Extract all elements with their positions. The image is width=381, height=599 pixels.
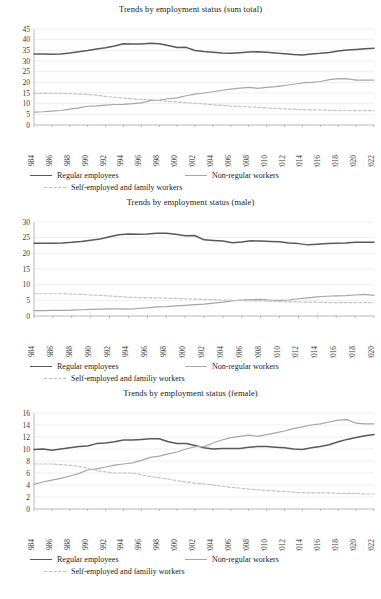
- legend-swatch-regular-employees-icon: [30, 366, 52, 367]
- legend-label-non-regular-workers: Non-regular workers: [212, 171, 279, 180]
- x-axis-tick-label: 1990: [84, 346, 93, 358]
- x-axis-tick-label: 2002: [188, 155, 197, 167]
- x-axis-tick-label: 2010: [260, 155, 269, 167]
- chart-title-sum-total: Trends by employment status (sum total): [0, 0, 381, 15]
- y-axis-tick-label: 15: [22, 89, 30, 98]
- x-axis-tick-label: 1984: [27, 539, 36, 551]
- x-axis-tick-label: 2012: [278, 539, 287, 551]
- x-axis-tick-label: 1994: [116, 539, 125, 551]
- y-axis-tick-label: 5: [26, 296, 30, 305]
- y-axis-tick-label: 0: [26, 505, 30, 514]
- legend-swatch-regular-employees-icon: [30, 175, 52, 176]
- x-axis-tick-label: 1998: [152, 155, 161, 167]
- x-axis-tick-label: 1986: [45, 539, 54, 551]
- line-chart-sum-total: 0510152025303540451984198619881990199219…: [0, 15, 381, 167]
- series-line-non-regular-workers: [34, 79, 374, 112]
- x-axis-tick-label: 1998: [152, 539, 161, 551]
- x-axis-tick-label: 2006: [235, 346, 244, 358]
- legend-item-regular-employees[interactable]: Regular employees: [30, 362, 185, 371]
- x-axis-tick-label: 1988: [65, 346, 74, 358]
- x-axis-tick-label: 2016: [313, 155, 322, 167]
- y-axis-tick-label: 2: [26, 493, 30, 502]
- x-axis-tick-label: 2014: [295, 155, 304, 167]
- charts-page: Trends by employment status (sum total)0…: [0, 0, 381, 577]
- x-axis-tick-label: 2004: [206, 539, 215, 551]
- y-axis-tick-label: 10: [22, 99, 30, 108]
- legend-label-regular-employees: Regular employees: [57, 555, 119, 564]
- series-line-self-employed-family-workers: [34, 294, 374, 303]
- x-axis-tick-label: 2016: [313, 539, 322, 551]
- legend-row: Self-employed and familiy workers: [30, 565, 381, 577]
- x-axis-tick-label: 2008: [242, 539, 251, 551]
- x-axis-tick-label: 2018: [348, 346, 357, 358]
- line-chart-female: 0246810121416198419861988199019921994199…: [0, 399, 381, 551]
- legend-swatch-self-employed-family-workers-icon: [44, 378, 66, 379]
- legend-item-self-employed-family-workers[interactable]: Self-employed and familiy workers: [44, 374, 185, 383]
- legend-item-self-employed-family-workers[interactable]: Self-employed and family workers: [44, 183, 182, 192]
- y-axis-tick-label: 35: [22, 46, 30, 55]
- x-axis-tick-label: 1996: [140, 346, 149, 358]
- legend-swatch-regular-employees-icon: [30, 559, 52, 560]
- y-axis-tick-label: 4: [26, 481, 30, 490]
- y-axis-tick-label: 45: [22, 25, 30, 34]
- y-axis-tick-label: 8: [26, 457, 30, 466]
- x-axis-tick-label: 1986: [45, 155, 54, 167]
- legend-male: Regular employeesNon-regular workersSelf…: [0, 358, 381, 384]
- series-line-regular-employees: [34, 233, 374, 245]
- x-axis-tick-label: 2000: [170, 539, 179, 551]
- x-axis-tick-label: 2010: [260, 539, 269, 551]
- x-axis-tick-label: 1992: [103, 346, 112, 358]
- line-chart-male: 0510152025301984198619881990199219941996…: [0, 208, 381, 358]
- legend-row: Regular employeesNon-regular workers: [30, 169, 381, 181]
- x-axis-tick-label: 2004: [206, 155, 215, 167]
- x-axis-tick-label: 2008: [242, 155, 251, 167]
- y-axis-tick-label: 30: [22, 57, 30, 66]
- y-axis-tick-label: 5: [26, 110, 30, 119]
- legend-item-regular-employees[interactable]: Regular employees: [30, 555, 185, 564]
- x-axis-tick-label: 2006: [224, 155, 233, 167]
- y-axis-tick-label: 10: [22, 445, 30, 454]
- legend-item-self-employed-family-workers[interactable]: Self-employed and familiy workers: [44, 567, 185, 576]
- legend-item-non-regular-workers[interactable]: Non-regular workers: [185, 362, 279, 371]
- x-axis-tick-label: 2018: [331, 539, 340, 551]
- legend-swatch-non-regular-workers-icon: [185, 175, 207, 176]
- plot-area-male: 0510152025301984198619881990199219941996…: [0, 208, 381, 358]
- x-axis-tick-label: 1996: [134, 539, 143, 551]
- x-axis-tick-label: 1996: [134, 155, 143, 167]
- legend-label-self-employed-family-workers: Self-employed and familiy workers: [71, 374, 185, 383]
- y-axis-tick-label: 12: [22, 433, 30, 442]
- x-axis-tick-label: 2002: [197, 346, 206, 358]
- legend-label-regular-employees: Regular employees: [57, 362, 119, 371]
- plot-area-female: 0246810121416198419861988199019921994199…: [0, 399, 381, 551]
- x-axis-tick-label: 2020: [349, 539, 358, 551]
- y-axis-tick-label: 10: [22, 280, 30, 289]
- y-axis-tick-label: 16: [22, 409, 30, 418]
- legend-item-regular-employees[interactable]: Regular employees: [30, 171, 185, 180]
- x-axis-tick-label: 2020: [349, 155, 358, 167]
- x-axis-tick-label: 1986: [46, 346, 55, 358]
- y-axis-tick-label: 0: [26, 121, 30, 130]
- legend-swatch-non-regular-workers-icon: [185, 559, 207, 560]
- legend-swatch-self-employed-family-workers-icon: [44, 187, 66, 188]
- legend-row: Self-employed and familiy workers: [30, 372, 381, 384]
- plot-area-sum-total: 0510152025303540451984198619881990199219…: [0, 15, 381, 167]
- series-line-regular-employees: [34, 43, 374, 55]
- x-axis-tick-label: 1988: [63, 155, 72, 167]
- x-axis-tick-label: 1992: [99, 155, 108, 167]
- chart-block-male: Trends by employment status (male)051015…: [0, 193, 381, 384]
- legend-row: Regular employeesNon-regular workers: [30, 553, 381, 565]
- x-axis-tick-label: 2000: [178, 346, 187, 358]
- x-axis-tick-label: 2016: [329, 346, 338, 358]
- series-line-non-regular-workers: [34, 294, 374, 310]
- y-axis-tick-label: 20: [22, 249, 30, 258]
- y-axis-tick-label: 40: [22, 35, 30, 44]
- legend-row: Self-employed and family workers: [30, 181, 381, 193]
- x-axis-tick-label: 2020: [367, 346, 376, 358]
- legend-item-non-regular-workers[interactable]: Non-regular workers: [185, 555, 279, 564]
- x-axis-tick-label: 2022: [367, 539, 376, 551]
- legend-row: Regular employeesNon-regular workers: [30, 360, 381, 372]
- legend-item-non-regular-workers[interactable]: Non-regular workers: [185, 171, 279, 180]
- x-axis-tick-label: 2004: [216, 346, 225, 358]
- legend-label-non-regular-workers: Non-regular workers: [212, 555, 279, 564]
- x-axis-tick-label: 2002: [188, 539, 197, 551]
